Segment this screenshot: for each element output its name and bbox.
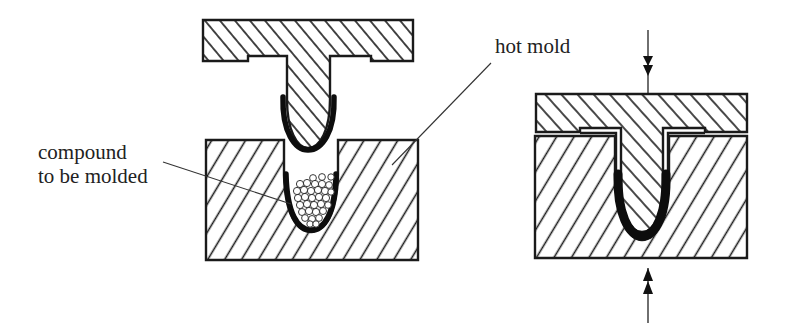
left-upper-plunger: [203, 20, 413, 150]
left-panel: compound to be molded hot mold: [38, 20, 571, 260]
right-panel: [535, 30, 747, 323]
diagram-svg: compound to be molded hot mold: [0, 0, 788, 332]
left-plunger-hatch: [203, 20, 413, 148]
bottom-pressure-arrow-icon: [643, 268, 653, 323]
top-pressure-arrow-icon: [643, 30, 653, 94]
compound-label-line2: to be molded: [38, 164, 148, 188]
hot-mold-label: hot mold: [495, 34, 571, 58]
compound-label-line1: compound: [38, 140, 127, 164]
hot-mold-leader-line: [392, 63, 491, 165]
compression-molding-diagram: compound to be molded hot mold: [0, 0, 788, 332]
